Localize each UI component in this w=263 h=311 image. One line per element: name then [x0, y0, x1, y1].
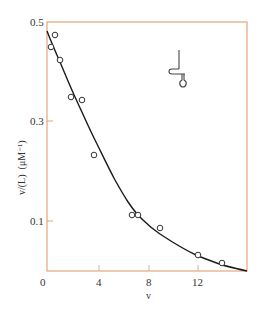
y-axis-label: v/(L) (μM⁻¹) — [16, 141, 28, 195]
x-tick-label: 8 — [146, 276, 152, 288]
data-points — [48, 32, 225, 266]
data-point — [129, 212, 135, 218]
macromolecule-schematic-icon — [169, 50, 186, 87]
data-point — [57, 57, 63, 63]
y-tick-label: 0.5 — [30, 16, 44, 28]
x-tick-label: 12 — [192, 276, 203, 288]
data-point — [68, 94, 74, 100]
data-point — [157, 225, 163, 231]
data-point — [52, 32, 58, 38]
data-point — [79, 97, 85, 103]
data-point — [91, 152, 97, 158]
x-tick-label: 4 — [96, 276, 102, 288]
fitted-curve — [47, 31, 247, 271]
chart: 0.5 0.3 0.1 0 4 8 12 v v/(L) (μM⁻¹) — [0, 0, 263, 311]
data-point — [48, 44, 54, 50]
y-tick-label: 0.1 — [30, 215, 44, 227]
x-tick-label: 0 — [40, 276, 46, 288]
plot-frame — [47, 22, 247, 271]
data-point — [195, 252, 201, 258]
x-axis-label: v — [146, 290, 151, 301]
x-ticks — [99, 265, 198, 271]
y-ticks — [47, 121, 53, 221]
data-point — [219, 260, 225, 266]
data-point — [135, 212, 141, 218]
y-tick-label: 0.3 — [30, 115, 44, 127]
